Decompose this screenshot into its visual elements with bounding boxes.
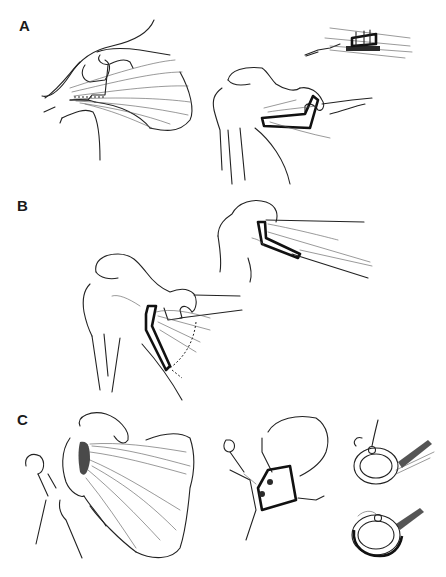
panel-c-cross-section-top-drawing <box>354 420 434 484</box>
panel-c-bone-window-drawing <box>224 417 328 540</box>
panel-c-cross-section-bottom-drawing <box>352 508 424 556</box>
panel-c-scapula-drawing <box>26 413 194 558</box>
panel-b-shoulder-drawing <box>83 254 242 400</box>
illustration-canvas <box>0 0 446 577</box>
figure: A B C <box>0 0 446 577</box>
panel-a-humerus-fixation-drawing <box>213 28 412 184</box>
figure-caption-cutoff <box>0 571 446 577</box>
panel-b-detail-drawing <box>218 201 372 283</box>
panel-a-shoulder-muscle-drawing <box>42 20 192 160</box>
